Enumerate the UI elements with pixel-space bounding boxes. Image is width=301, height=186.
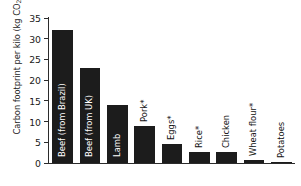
bar: [216, 152, 237, 163]
bar-category-label: Pork*: [139, 99, 149, 121]
bar: [271, 162, 292, 163]
y-axis-tick-label: 10: [1, 116, 41, 127]
y-axis-tick-label: 35: [1, 13, 41, 24]
bar-category-label: Chicken: [221, 115, 231, 148]
y-axis-title-subscript: 2: [15, 0, 22, 4]
y-axis-tick-label: 0: [1, 158, 41, 169]
bar-category-label: Beef (from UK): [84, 95, 94, 157]
bar-category-label: Eggs*: [166, 116, 176, 140]
y-axis-tick-label: 25: [1, 54, 41, 65]
y-axis-tick-label: 30: [1, 33, 41, 44]
bar: [189, 152, 210, 163]
carbon-footprint-bar-chart: Carbon footprint per kilo (kg CO2e) 0510…: [0, 0, 301, 186]
bar: [244, 160, 265, 163]
bar-category-label: Beef (from Brazil): [57, 83, 67, 157]
bar-category-label: Potatoes: [276, 122, 286, 158]
plot-area: Beef (from Brazil)Beef (from UK)LambPork…: [48, 18, 294, 163]
y-axis-tick-label: 15: [1, 95, 41, 106]
y-axis-tick-label: 20: [1, 75, 41, 86]
y-axis-tick-label: 5: [1, 137, 41, 148]
bar: [134, 126, 155, 163]
bar-category-label: Lamb: [112, 134, 122, 157]
bar: [162, 144, 183, 163]
bar-category-label: Rice*: [194, 126, 204, 148]
bar-category-label: Wheat flour*: [248, 103, 258, 156]
